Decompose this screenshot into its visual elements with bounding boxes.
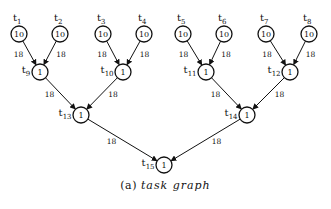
node-label: t11 [184, 64, 197, 78]
edge-arrow [210, 41, 221, 64]
edge-t12-t14: 18 [253, 78, 284, 109]
node-t12: 1t12 [268, 64, 298, 80]
edge-arrow [187, 41, 201, 65]
edge-weight-label: 18 [275, 90, 285, 99]
node-label: t2 [54, 12, 63, 26]
node-weight: 1 [37, 68, 42, 77]
node-label: t10 [101, 64, 114, 78]
edge-weight-label: 18 [56, 50, 66, 59]
edge-weight-label: 18 [211, 90, 221, 99]
node-t3: 10t3 [95, 12, 111, 42]
edge-t14-t15: 18 [171, 119, 240, 160]
edge-t3-t10: 18 [97, 41, 119, 64]
node-label: t1 [13, 12, 22, 26]
node-label: t14 [225, 107, 238, 121]
edge-t9-t13: 18 [45, 78, 75, 109]
node-label: t5 [177, 12, 186, 26]
node-t2: 10t2 [52, 12, 68, 42]
node-weight: 1 [78, 111, 83, 120]
edge-arrow [88, 119, 157, 160]
edge-weight-label: 18 [140, 50, 150, 59]
task-graph-canvas: 1818181818181818181818181818 10t110t210t… [0, 0, 331, 209]
edge-weight-label: 18 [179, 50, 189, 59]
caption-text: task graph [141, 179, 211, 192]
node-label: t6 [218, 12, 227, 26]
node-weight: 1 [287, 68, 292, 77]
edge-t10-t13: 18 [87, 78, 118, 109]
node-weight: 1 [244, 111, 249, 120]
node-weight: 10 [261, 30, 271, 39]
node-weight: 10 [304, 30, 314, 39]
figure-caption: (a) task graph [0, 179, 331, 192]
node-t4: 10t4 [136, 12, 152, 42]
node-label: t15 [142, 157, 155, 171]
node-t6: 10t6 [216, 12, 232, 42]
edge-arrow [107, 41, 119, 64]
edge-weight-label: 18 [97, 50, 107, 59]
edge-arrow [294, 41, 306, 64]
node-t8: 10t8 [301, 12, 317, 42]
node-weight: 10 [14, 30, 24, 39]
node-label: t3 [97, 12, 106, 26]
node-label: t9 [22, 64, 31, 78]
edge-arrow [270, 41, 285, 65]
node-weight: 1 [203, 68, 208, 77]
caption-prefix: (a) [120, 179, 137, 192]
edge-t7-t12: 18 [262, 41, 285, 65]
node-weight: 1 [120, 68, 125, 77]
node-weight: 10 [98, 30, 108, 39]
node-t11: 1t11 [184, 64, 214, 80]
edge-weight-label: 18 [108, 90, 118, 99]
node-label: t13 [59, 107, 72, 121]
edge-weight-label: 18 [212, 137, 222, 146]
node-t14: 1t14 [225, 107, 255, 123]
edge-weight-label: 18 [262, 50, 272, 59]
edge-weight-label: 18 [45, 90, 55, 99]
edge-t6-t11: 18 [210, 41, 231, 64]
node-label: t8 [303, 12, 312, 26]
edge-t4-t10: 18 [127, 41, 149, 65]
nodes-layer: 10t110t210t310t410t510t610t710t81t91t101… [11, 12, 317, 173]
node-t1: 10t1 [11, 12, 27, 42]
edge-t11-t14: 18 [211, 78, 241, 109]
node-t9: 1t9 [22, 64, 48, 80]
node-t13: 1t13 [59, 107, 89, 123]
edge-arrow [171, 119, 240, 160]
node-label: t4 [138, 12, 147, 26]
edge-weight-label: 18 [14, 50, 24, 59]
edge-weight-label: 18 [306, 50, 316, 59]
node-weight: 10 [55, 30, 65, 39]
edge-weight-label: 18 [221, 50, 231, 59]
edge-arrow [44, 41, 56, 64]
node-t10: 1t10 [101, 64, 131, 80]
node-weight: 10 [178, 30, 188, 39]
edge-t1-t9: 18 [14, 41, 36, 65]
node-weight: 10 [219, 30, 229, 39]
node-t15: 1t15 [142, 157, 172, 173]
edge-t5-t11: 18 [179, 41, 202, 65]
edge-t13-t15: 18 [88, 119, 157, 160]
node-label: t7 [260, 12, 269, 26]
edge-arrow [23, 41, 36, 65]
edge-weight-label: 18 [107, 137, 117, 146]
edge-arrow [127, 41, 140, 65]
node-label: t12 [268, 64, 281, 78]
node-weight: 1 [161, 161, 166, 170]
edge-t8-t12: 18 [294, 41, 316, 64]
node-t5: 10t5 [175, 12, 191, 42]
edges-layer: 1818181818181818181818181818 [14, 41, 316, 161]
edge-t2-t9: 18 [44, 41, 66, 64]
node-weight: 10 [139, 30, 149, 39]
node-t7: 10t7 [258, 12, 274, 42]
